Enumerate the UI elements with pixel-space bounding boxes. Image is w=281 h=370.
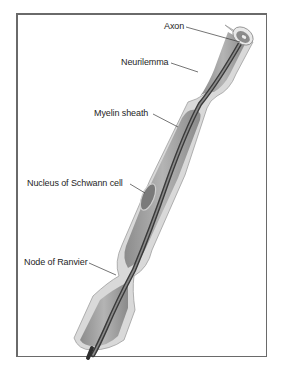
label-nucleus-schwann: Nucleus of Schwann cell: [27, 178, 123, 188]
label-axon: Axon: [164, 21, 184, 31]
label-neurilemma: Neurilemma: [121, 57, 169, 67]
label-node-ranvier: Node of Ranvier: [24, 257, 88, 267]
label-myelin-sheath: Myelin sheath: [94, 108, 148, 118]
